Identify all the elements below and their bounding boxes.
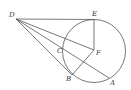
point-label-f: F: [95, 49, 102, 57]
point-label-a: A: [109, 79, 115, 87]
point-label-b: B: [65, 75, 71, 83]
segment-db: [16, 19, 72, 75]
point-labels: DEFCBA: [8, 10, 115, 87]
segment-fb: [72, 50, 94, 75]
point-label-e: E: [91, 10, 97, 18]
segment-df: [16, 19, 94, 50]
point-label-c: C: [57, 47, 63, 55]
geometry-diagram: DEFCBA: [0, 0, 131, 90]
segment-de: [16, 19, 94, 20]
point-label-d: D: [8, 11, 15, 19]
